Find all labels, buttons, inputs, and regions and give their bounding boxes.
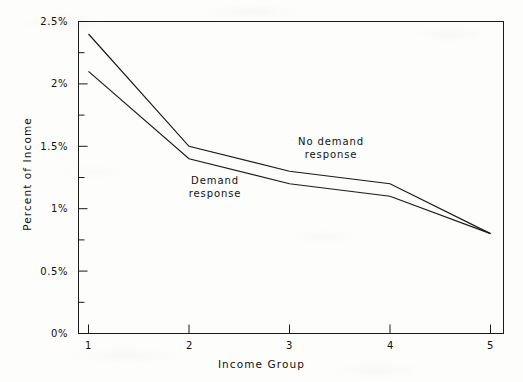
x-axis-major-ticks [89, 325, 491, 334]
y-tick-label-2: 2% [14, 78, 68, 89]
x-tick-label-4: 4 [370, 340, 411, 351]
x-tick-label-2: 2 [169, 340, 210, 351]
annotation-line-1: No demand [283, 135, 379, 148]
y-tick-label-0: 0% [14, 328, 68, 339]
annotation-line-1: Demand [176, 174, 254, 187]
chart-figure: 2.5% 2% 1.5% 1% 0.5% 0% 1 2 3 4 5 Percen… [0, 0, 523, 382]
x-tick-label-3: 3 [269, 340, 310, 351]
y-tick-label-0.5: 0.5% [14, 266, 68, 277]
annotation-line-2: response [176, 187, 254, 200]
annotation-line-2: response [283, 148, 379, 161]
y-axis-title: Percent of Income [21, 104, 33, 244]
plot-frame [79, 22, 504, 334]
annotation-no-demand-response: No demand response [283, 135, 379, 161]
y-axis-minor-ticks [79, 53, 85, 303]
x-axis-title: Income Group [0, 358, 523, 370]
x-tick-label-1: 1 [68, 340, 109, 351]
plot-area [0, 0, 523, 382]
y-tick-label-2.5: 2.5% [14, 16, 68, 27]
x-tick-label-5: 5 [470, 340, 511, 351]
annotation-demand-response: Demand response [176, 174, 254, 200]
series-line-no-demand-response [89, 34, 491, 234]
